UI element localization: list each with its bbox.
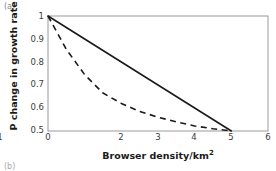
axis-frame [48,16,268,131]
series-line-solid [48,16,231,131]
plot-canvas [0,0,276,171]
figure-panel-a: (a) (b) P change in growth rate Browser … [0,0,276,171]
